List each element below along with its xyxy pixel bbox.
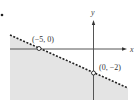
point-a-label: (−5, 0)	[32, 35, 54, 44]
y-axis-arrow-icon	[92, 20, 95, 25]
bullet-marker	[1, 14, 4, 17]
x-axis-arrow-icon	[122, 47, 127, 50]
point-b-marker	[92, 71, 96, 75]
y-axis-label: y	[90, 8, 95, 17]
point-a-marker	[37, 47, 41, 51]
inequality-graph: x y (−5, 0) (0, −2)	[0, 0, 140, 109]
x-axis-label: x	[129, 45, 134, 54]
point-b-label: (0, −2)	[99, 63, 121, 72]
